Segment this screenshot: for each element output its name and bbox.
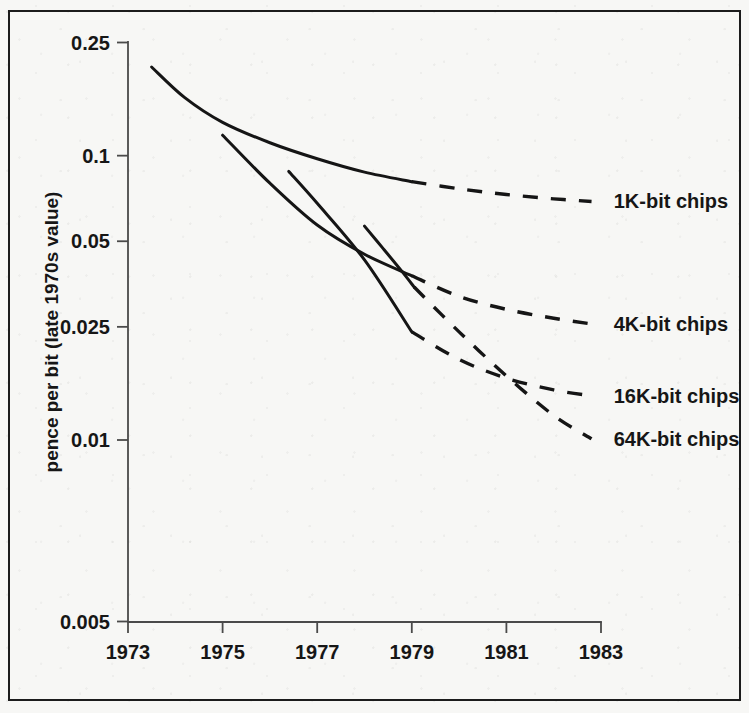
y-tick-label: 0.05 <box>71 230 110 252</box>
series-line-dashed <box>412 182 592 202</box>
axis-lines <box>128 42 601 622</box>
series-2 <box>223 135 592 324</box>
x-tick-label: 1983 <box>579 641 624 663</box>
series-label: 64K-bit chips <box>614 428 740 450</box>
series-layer <box>152 67 592 439</box>
x-tick-label: 1981 <box>484 641 529 663</box>
series-label: 1K-bit chips <box>614 190 728 212</box>
y-tick-label: 0.1 <box>82 145 110 167</box>
x-tick-label: 1979 <box>390 641 435 663</box>
x-tick-label: 1975 <box>200 641 245 663</box>
y-tick-label: 0.005 <box>60 611 110 633</box>
series-line-solid <box>152 67 412 182</box>
y-axis-title: pence per bit (late 1970s value) <box>41 192 62 473</box>
chart-page: 0.250.10.050.0250.010.005 19731975197719… <box>0 0 749 713</box>
y-tick-label: 0.025 <box>60 316 110 338</box>
y-tick-label: 0.01 <box>71 429 110 451</box>
y-axis-ticks: 0.250.10.050.0250.010.005 <box>60 32 128 633</box>
axes <box>128 42 601 622</box>
series-3 <box>289 171 592 395</box>
series-1 <box>152 67 592 201</box>
series-label: 16K-bit chips <box>614 385 740 407</box>
series-label-layer: 1K-bit chips4K-bit chips16K-bit chips64K… <box>614 190 740 449</box>
x-tick-label: 1973 <box>106 641 151 663</box>
x-tick-label: 1977 <box>295 641 340 663</box>
y-tick-label: 0.25 <box>71 32 110 54</box>
series-line-dashed <box>412 276 592 324</box>
x-axis-ticks: 197319751977197919811983 <box>106 622 624 663</box>
series-4 <box>365 226 592 439</box>
series-line-solid <box>289 171 412 331</box>
figure-border <box>9 11 740 700</box>
series-line-dashed <box>412 332 592 396</box>
series-label: 4K-bit chips <box>614 313 728 335</box>
semilog-line-chart: 0.250.10.050.0250.010.005 19731975197719… <box>0 0 749 713</box>
